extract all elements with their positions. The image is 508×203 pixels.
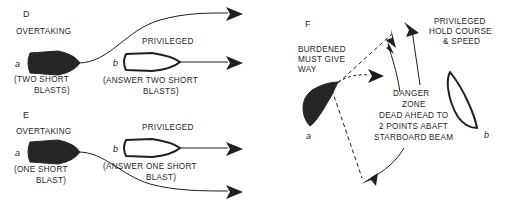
panel-f-vessel-b-role-line1: PRIVILEGED: [434, 17, 486, 26]
panel-e-vessel-b-signal-line1: (ANSWER ONE SHORT: [103, 162, 197, 171]
panel-d-vessel-a-tag: a: [15, 59, 20, 69]
panel-f-vessel-a-tag: a: [306, 131, 311, 141]
panel-d-vessel-b-track-arrowhead: [226, 56, 243, 70]
nautical-rules-diagram: D OVERTAKING a (TWO SHORT BLASTS) PRIVIL…: [0, 0, 508, 203]
panel-d-vessel-a-track-arrowhead: [226, 7, 243, 21]
panel-f-vessel-a-role-line3: WAY: [298, 65, 317, 74]
panel-e: E OVERTAKING a (ONE SHORT BLAST) PRIVILE…: [14, 110, 243, 199]
panel-e-vessel-a-signal-line1: (ONE SHORT: [14, 165, 68, 174]
panel-d-vessel-a-signal-line1: (TWO SHORT: [14, 75, 69, 84]
panel-d-vessel-b-hull: [124, 53, 180, 71]
panel-f-vessel-b-tag: b: [484, 130, 489, 140]
panel-f-vessel-a-heading-arrowhead: [368, 69, 384, 83]
panel-d: D OVERTAKING a (TWO SHORT BLASTS) PRIVIL…: [14, 7, 243, 96]
panel-d-label: D: [23, 9, 30, 19]
panel-f-vessel-b-track: [412, 30, 420, 85]
panel-e-vessel-a-tag: a: [15, 148, 20, 158]
panel-f-vessel-b-hull: [448, 72, 477, 128]
panel-e-vessel-b-track-arrowhead: [226, 142, 243, 156]
panel-e-vessel-a-hull: [28, 140, 80, 164]
panel-f-danger-zone-line5: STARBOARD BEAM: [374, 133, 453, 142]
panel-e-vessel-a-track-arrowhead: [226, 185, 243, 199]
panel-f-vessel-a-heading-track: [338, 75, 370, 82]
panel-f-danger-zone-line4: 2 POINTS ABAFT: [379, 122, 448, 131]
panel-f-vessel-a-hull: [303, 82, 338, 126]
panel-f-danger-zone-lower-boundary: [332, 90, 362, 178]
panel-f-vessel-b-role-line3: & SPEED: [443, 37, 480, 46]
panel-d-vessel-b-role: PRIVILEGED: [142, 37, 194, 46]
panel-f-danger-zone-line2: ZONE: [402, 100, 426, 109]
panel-f-danger-zone-leader-upper: [388, 44, 400, 92]
panel-e-vessel-b-tag: b: [113, 144, 118, 154]
panel-d-vessel-b-tag: b: [113, 58, 118, 68]
panel-f-danger-zone-upper-boundary: [338, 34, 392, 83]
panel-d-vessel-b-signal-line1: (ANSWER TWO SHORT: [103, 76, 198, 85]
panel-f-vessel-b-role-line2: HOLD COURSE: [429, 27, 492, 36]
panel-f-danger-zone-leader-lower-arrowhead: [361, 173, 378, 186]
panel-d-vessel-a-hull: [28, 51, 80, 75]
panel-d-vessel-a-signal-line2: BLASTS): [34, 86, 70, 95]
panel-f-danger-zone-line1: DANGER: [393, 89, 430, 98]
panel-f: F BURDENED MUST GIVE WAY PRIVILEGED HOLD…: [298, 17, 492, 186]
figure-canvas: D OVERTAKING a (TWO SHORT BLASTS) PRIVIL…: [0, 0, 508, 203]
panel-f-label: F: [305, 19, 311, 29]
panel-d-vessel-b-signal-line2: BLASTS): [143, 87, 179, 96]
panel-e-vessel-b-hull: [124, 139, 180, 157]
panel-e-vessel-a-signal-line2: BLAST): [36, 176, 66, 185]
panel-d-situation-label: OVERTAKING: [16, 27, 71, 36]
panel-f-danger-zone-line3: DEAD AHEAD TO: [379, 111, 448, 120]
panel-e-vessel-b-signal-line2: BLAST): [146, 173, 176, 182]
panel-e-vessel-b-role: PRIVILEGED: [142, 123, 194, 132]
panel-f-danger-zone-leader-lower: [371, 148, 404, 178]
panel-f-vessel-a-role-line1: BURDENED: [298, 45, 346, 54]
panel-f-vessel-a-role-line2: MUST GIVE: [298, 55, 345, 64]
panel-e-label: E: [23, 110, 29, 120]
panel-f-vessel-b-track-arrowhead: [404, 22, 419, 37]
panel-e-situation-label: OVERTAKING: [16, 127, 71, 136]
